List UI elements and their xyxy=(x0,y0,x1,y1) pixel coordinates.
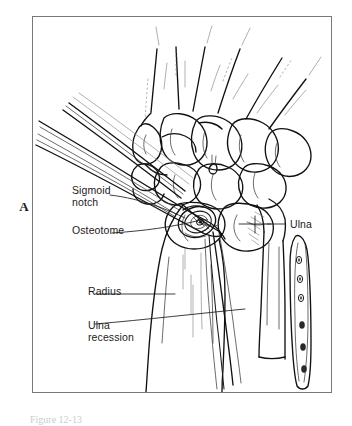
label-sigmoid-notch: Sigmoid notch xyxy=(72,185,111,208)
label-sigmoid-notch-line1: Sigmoid xyxy=(72,185,111,197)
label-osteotome: Osteotome xyxy=(72,225,124,237)
figure-caption: Figure 12-13 xyxy=(30,414,320,426)
figure-root: A .o { fill:none; stroke:#111111; stroke… xyxy=(0,0,352,426)
label-ulna: Ulna xyxy=(290,219,312,231)
label-sigmoid-notch-line2: notch xyxy=(72,197,111,209)
label-ulna-recession-line2: recession xyxy=(88,332,134,344)
label-ulna-recession: Ulna recession xyxy=(88,320,134,343)
label-radius: Radius xyxy=(88,286,121,298)
label-ulna-recession-line1: Ulna xyxy=(88,320,134,332)
